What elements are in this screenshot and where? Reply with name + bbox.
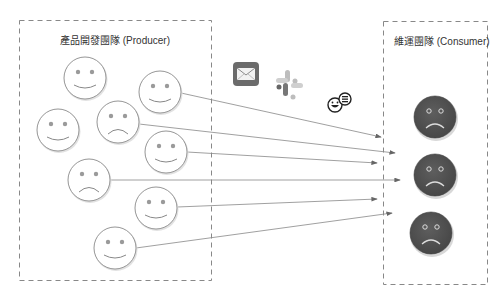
slack-icon [276,70,303,100]
mail-icon [233,62,259,86]
sad-face-icon [414,96,458,141]
happy-face-icon [145,131,189,175]
producer-title: 產品開發團隊 (Producer) [60,32,170,47]
sad-face-icon [68,159,112,203]
happy-face-icon [135,187,179,231]
sad-face-icon [97,101,141,145]
sad-face-icon [410,212,454,257]
sad-face-icon [414,154,458,199]
chat-bot-icon [328,93,351,112]
happy-face-icon [94,227,138,271]
happy-face-icon [37,109,81,153]
happy-face-icon [139,71,183,115]
happy-face-icon [64,57,108,101]
producer-faces [37,57,189,271]
consumer-title: 維運團隊 (Consumer) [394,33,490,48]
consumer-faces [410,96,458,257]
